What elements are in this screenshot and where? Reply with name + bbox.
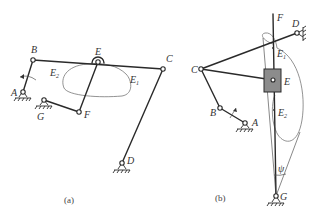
label-a-E2: E2 xyxy=(49,67,59,79)
label-b-G: G xyxy=(280,191,287,202)
link-CD xyxy=(122,69,163,163)
point-E2 xyxy=(273,109,275,111)
link-CB xyxy=(201,69,220,108)
point-E1 xyxy=(272,47,274,49)
figure-b: F D C E B A G E1 E2 ψ (b) xyxy=(191,12,306,206)
label-a-C: C xyxy=(166,53,173,64)
joint-G xyxy=(42,98,46,102)
label-a-E: E xyxy=(94,46,101,57)
label-b-psi: ψ xyxy=(278,163,285,174)
label-b-B: B xyxy=(210,107,216,118)
link-BA xyxy=(220,108,245,123)
label-a-E1: E1 xyxy=(129,74,139,86)
joint-E xyxy=(271,78,275,82)
joint-D xyxy=(120,161,124,165)
joint-C xyxy=(199,67,203,71)
joint-B xyxy=(218,106,222,110)
label-b-F: F xyxy=(276,12,284,23)
caption-a: (a) xyxy=(64,195,74,205)
label-b-E2: E2 xyxy=(277,107,287,119)
label-b-C: C xyxy=(191,64,198,75)
mechanism-diagrams: B E C A G F D E2 E1 (a) xyxy=(0,0,319,220)
link-EF xyxy=(79,62,98,112)
coupler-curve-a xyxy=(63,63,131,96)
caption-b: (b) xyxy=(215,193,226,203)
joint-C xyxy=(161,67,165,71)
label-b-A: A xyxy=(251,117,259,128)
figure-a: B E C A G F D E2 E1 (a) xyxy=(10,44,173,205)
joint-A xyxy=(243,121,247,125)
label-a-G: G xyxy=(37,111,44,122)
joint-E xyxy=(96,60,100,64)
label-b-D: D xyxy=(291,18,300,29)
joint-A xyxy=(21,90,25,94)
joint-F xyxy=(77,110,81,114)
label-a-B: B xyxy=(31,44,37,55)
label-b-E1: E1 xyxy=(276,48,286,60)
link-CE xyxy=(201,69,273,80)
label-a-F: F xyxy=(83,109,91,120)
label-a-A: A xyxy=(10,87,18,98)
joint-B xyxy=(31,58,35,62)
label-b-E: E xyxy=(283,76,290,87)
joint-D xyxy=(295,31,299,35)
label-a-D: D xyxy=(126,155,135,166)
joint-G xyxy=(274,194,278,198)
